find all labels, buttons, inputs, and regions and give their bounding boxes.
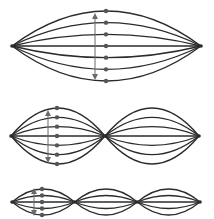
node-point — [10, 200, 14, 204]
particle-dot — [55, 134, 59, 138]
string-line — [12, 11, 201, 46]
string-line — [12, 46, 201, 81]
node-point — [10, 44, 14, 48]
particle-dot — [40, 213, 44, 217]
particle-dot — [55, 152, 59, 156]
standing-wave-diagram — [0, 0, 214, 219]
particle-dot — [55, 106, 59, 110]
particle-dot — [55, 143, 59, 147]
node-point — [73, 200, 77, 204]
node-point — [198, 200, 202, 204]
node-point — [9, 134, 13, 138]
node-point — [197, 134, 201, 138]
particle-dot — [104, 9, 108, 13]
node-point — [103, 134, 107, 138]
particle-dot — [104, 67, 108, 71]
particle-dot — [104, 79, 108, 83]
diagram-canvas — [0, 0, 214, 219]
node-point — [136, 200, 140, 204]
particle-dot — [40, 206, 44, 210]
particle-dot — [40, 187, 44, 191]
particle-dot — [55, 124, 59, 128]
node-point — [199, 44, 203, 48]
particle-dot — [40, 200, 44, 204]
particle-dot — [104, 20, 108, 24]
particle-dot — [104, 44, 108, 48]
particle-dot — [55, 115, 59, 119]
particle-dot — [40, 193, 44, 197]
particle-dot — [104, 32, 108, 36]
particle-dot — [104, 55, 108, 59]
particle-dot — [55, 162, 59, 166]
